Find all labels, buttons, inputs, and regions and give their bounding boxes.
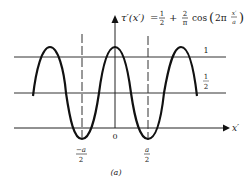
equation-plus: + <box>169 12 177 23</box>
paren-close: ) <box>239 10 244 25</box>
level-one-label: 1 <box>203 46 208 55</box>
equation-cos: cos <box>192 13 207 23</box>
x-axis-label: x′ <box>232 123 239 133</box>
term2-denominator: π <box>183 19 188 27</box>
tick-neg-half-a-denominator: 2 <box>79 156 83 164</box>
x-axis-arrow-icon <box>223 125 230 132</box>
level-half-denominator: 2 <box>204 83 208 91</box>
tick-pos-half-a-denominator: 2 <box>145 156 149 164</box>
equation: τ′(x′) = 1 2 + 2 π cos ( 2π x′ a ) <box>121 9 244 27</box>
paren-open: ( <box>209 10 214 25</box>
equation-equals: = <box>150 12 158 23</box>
arg-numerator: x′ <box>232 9 237 16</box>
term2-numerator: 2 <box>183 10 187 18</box>
term1-numerator: 1 <box>160 10 164 18</box>
equation-lhs: τ′(x′) <box>121 12 145 23</box>
diagram: τ′(x′) = 1 2 + 2 π cos ( 2π x′ a ) 1 1 2… <box>0 0 249 185</box>
term1-denominator: 2 <box>160 19 164 27</box>
arg-prefix: 2π <box>215 13 227 23</box>
figure-caption: (a) <box>110 168 121 177</box>
origin-label: 0 <box>112 132 117 141</box>
tick-pos-half-a-numerator: a <box>145 146 149 154</box>
tick-neg-half-a-numerator: −a <box>76 146 86 154</box>
arg-denominator: a <box>232 18 236 25</box>
level-half-numerator: 1 <box>204 73 208 81</box>
y-axis-arrow-icon <box>112 15 119 23</box>
